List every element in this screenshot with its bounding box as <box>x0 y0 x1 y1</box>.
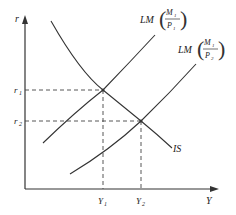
y2-label: Y 2 <box>136 196 145 207</box>
svg-text:1: 1 <box>174 13 177 18</box>
svg-text:2: 2 <box>19 121 22 127</box>
svg-text:r: r <box>14 116 18 126</box>
svg-text:1: 1 <box>19 90 22 96</box>
svg-text:P: P <box>166 21 172 30</box>
y1-label: Y 1 <box>98 196 107 207</box>
svg-text:2: 2 <box>142 201 145 207</box>
is-lm-diagram: r Y IS LM ( M 1 P 1 ) LM ( M 1 P 2 ) r 1 <box>0 0 236 215</box>
y-axis-arrow-icon <box>22 15 28 24</box>
x-axis-label: Y <box>206 195 213 206</box>
svg-text:M: M <box>203 38 212 47</box>
x-axis-arrow-icon <box>210 186 219 192</box>
paren-right: ) <box>180 6 187 31</box>
lm1-curve <box>43 35 155 143</box>
lm2-curve <box>70 64 196 174</box>
lm1-curve-label: LM ( M 1 P 1 ) <box>139 6 187 31</box>
svg-text:1: 1 <box>212 43 215 48</box>
svg-text:M: M <box>165 8 174 17</box>
svg-text:r: r <box>14 85 18 95</box>
equilibrium-point-1 <box>102 89 105 92</box>
svg-text:1: 1 <box>173 26 176 31</box>
lm2-curve-label: LM ( M 1 P 2 ) <box>177 36 225 61</box>
svg-text:LM: LM <box>139 14 155 25</box>
y-axis-label: r <box>15 13 19 24</box>
is-curve <box>51 21 172 148</box>
is-curve-label: IS <box>172 143 181 154</box>
r1-label: r 1 <box>14 85 22 96</box>
svg-text:2: 2 <box>211 56 214 61</box>
svg-text:1: 1 <box>104 201 107 207</box>
svg-text:LM: LM <box>177 44 193 55</box>
r2-label: r 2 <box>14 116 22 127</box>
equilibrium-point-2 <box>140 120 143 123</box>
svg-text:P: P <box>204 51 210 60</box>
paren-right: ) <box>218 36 225 61</box>
